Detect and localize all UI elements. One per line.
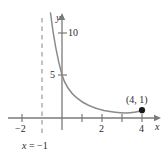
asymptote-equals-sign: =: [26, 140, 37, 151]
y-tick-label-5: 5: [50, 70, 55, 80]
x-tick-label-2: 2: [99, 124, 104, 134]
plot-canvas: [0, 0, 167, 161]
y-tick-label-10: 10: [68, 28, 78, 38]
math-graph-figure: y x 10 5 −2 2 4 (4, 1) x = −1: [0, 0, 167, 161]
y-axis: [59, 13, 65, 130]
point-annotation-label: (4, 1): [126, 95, 148, 105]
data-point-4-1: [139, 107, 145, 113]
asymptote-value: −1: [37, 140, 48, 151]
asymptote-annotation-label: x = −1: [22, 141, 48, 151]
x-tick-label-minus-2: −2: [15, 124, 26, 134]
x-axis-label: x: [155, 122, 159, 132]
y-axis-label: y: [56, 13, 60, 23]
x-axis: [8, 115, 161, 121]
x-tick-label-4: 4: [139, 124, 144, 134]
